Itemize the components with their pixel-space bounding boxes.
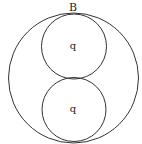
inner-top-label: q xyxy=(70,40,77,51)
diagram-canvas: B q q xyxy=(0,0,142,144)
outer-label: B xyxy=(69,1,77,14)
inner-bottom-label: q xyxy=(70,103,77,114)
